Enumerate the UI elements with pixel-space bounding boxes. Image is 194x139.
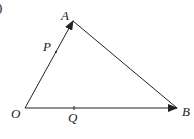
label-q: Q — [68, 110, 78, 125]
label-o: O — [11, 106, 21, 121]
vector-oa — [25, 21, 73, 108]
label-b: B — [182, 104, 190, 119]
segment-ab — [73, 21, 177, 108]
vector-triangle-diagram: ) O A B P Q — [0, 0, 194, 139]
point-p-marker — [55, 51, 57, 53]
corner-mark: ) — [0, 0, 2, 15]
label-a: A — [60, 8, 69, 23]
label-p: P — [42, 39, 51, 54]
